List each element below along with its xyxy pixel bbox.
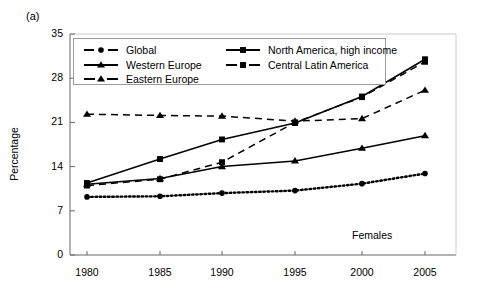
legend-label: Global — [122, 44, 156, 56]
legend-label: Western Europe — [122, 59, 202, 71]
legend-label: Eastern Europe — [122, 73, 199, 85]
legend-key-square-icon — [224, 43, 264, 57]
legend: GlobalWestern EuropeEastern EuropeNorth … — [73, 38, 386, 85]
series-global — [84, 171, 428, 200]
legend-entry: Central Latin America — [224, 57, 368, 72]
legend-entry: Global — [82, 42, 156, 57]
legend-entry: Western Europe — [82, 57, 202, 72]
series-western-europe — [83, 132, 429, 187]
legend-key-triangle-icon — [82, 58, 122, 72]
chart-figure: (a) Percentage 0714212835 19801985199019… — [0, 0, 485, 308]
legend-key-square-icon — [224, 58, 264, 72]
legend-label: Central Latin America — [264, 59, 368, 71]
legend-entry: North America, high income — [224, 42, 397, 57]
legend-entry: Eastern Europe — [82, 71, 199, 86]
legend-key-circle-icon — [82, 43, 122, 57]
series-eastern-europe — [83, 86, 429, 123]
legend-key-triangle-icon — [82, 72, 122, 86]
legend-label: North America, high income — [264, 44, 397, 56]
series-annotation: Females — [352, 229, 392, 241]
